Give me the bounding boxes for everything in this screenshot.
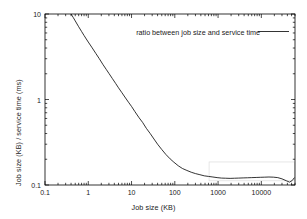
chart-figure: ratio between job size and service time …	[0, 0, 307, 219]
x-tick-label: 100	[169, 189, 181, 196]
y-tick-label: 1	[20, 96, 41, 103]
x-tick-label: 1	[86, 189, 90, 196]
data-series-lines	[71, 14, 294, 182]
legend-entry-label: ratio between job size and service time	[136, 28, 260, 37]
x-tick-label: 10000	[252, 189, 271, 196]
x-tick-label: 0.1	[40, 189, 50, 196]
x-axis-title: Job size (KB)	[0, 203, 307, 212]
x-tick-label: 1000	[210, 189, 226, 196]
x-tick-label: 10	[128, 189, 136, 196]
y-tick-label: 0.1	[20, 182, 41, 189]
axis-ticks	[45, 14, 295, 185]
y-tick-label: 10	[20, 11, 41, 18]
plot-frame	[45, 14, 295, 185]
